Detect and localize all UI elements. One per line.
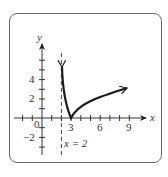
x-tick-label-6: 6: [97, 121, 103, 133]
y-tick-label-neg2: −2: [23, 131, 35, 143]
y-tick-label-4: 4: [29, 73, 35, 85]
x-tick-label-9: 9: [126, 121, 132, 133]
x-tick-label-3: 3: [68, 121, 74, 133]
graph: y x 0 3 6 9 4 2 −2 x = 2: [0, 0, 168, 177]
asymptote-label: x = 2: [63, 137, 88, 149]
origin-label: 0: [34, 118, 40, 130]
y-axis: [39, 44, 45, 155]
y-axis-label: y: [36, 31, 42, 43]
y-tick-label-2: 2: [29, 92, 35, 104]
x-axis-label: x: [149, 111, 155, 123]
function-curve: [62, 67, 127, 118]
